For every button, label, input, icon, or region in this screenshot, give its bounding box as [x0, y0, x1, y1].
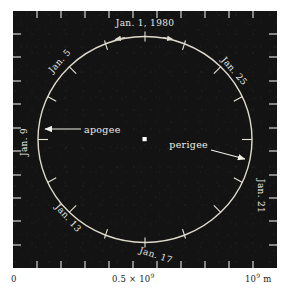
- date-label-jan-21: Jan. 21: [256, 178, 266, 213]
- date-label-jan-17: Jan. 17: [137, 245, 173, 265]
- x-axis-label-left: 0: [11, 274, 17, 284]
- tick-marks-right: [269, 34, 277, 245]
- apogee-label: apogee: [84, 124, 121, 135]
- tick-marks-top: [37, 11, 253, 18]
- perigee-label: perigee: [169, 139, 208, 150]
- earth-marker: [143, 137, 147, 141]
- x-axis-unit: m: [260, 274, 271, 284]
- x-axis-label-right: 109 m: [245, 274, 271, 284]
- orbit-plot: Jan. 1, 1980 Jan. 5 Jan. 9 Jan. 13 Jan. …: [13, 11, 277, 268]
- x-axis-center-exponent: 9: [150, 272, 154, 279]
- date-label-jan-5: Jan. 5: [46, 47, 73, 75]
- date-label-jan-9: Jan. 9: [19, 128, 29, 157]
- date-label-jan-13: Jan. 13: [52, 201, 83, 234]
- date-label-jan-1: Jan. 1, 1980: [115, 18, 174, 28]
- plot-area: Jan. 1, 1980 Jan. 5 Jan. 9 Jan. 13 Jan. …: [13, 11, 277, 268]
- tick-marks-bottom: [37, 261, 253, 268]
- x-axis-label-center: 0.5 × 109: [112, 274, 155, 284]
- orbit-figure: Jan. 1, 1980 Jan. 5 Jan. 9 Jan. 13 Jan. …: [0, 0, 288, 298]
- perigee-leader-line: [211, 150, 245, 159]
